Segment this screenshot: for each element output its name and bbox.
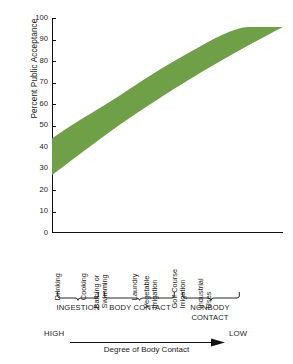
- acceptance-band: [52, 18, 283, 233]
- y-tick-label-90: 90: [26, 35, 48, 43]
- y-tick-label-10: 10: [26, 207, 48, 215]
- y-tick-label-50: 50: [26, 121, 48, 129]
- group-label-nonbody-contact: NONBODY CONTACT: [180, 303, 240, 322]
- brace-nonbody-contact: [182, 292, 240, 301]
- y-tick-label-40: 40: [26, 143, 48, 151]
- y-tick-label-60: 60: [26, 100, 48, 108]
- gradient-arrow-icon: [70, 333, 230, 342]
- group-label-nonbody-contact-line1: NONBODY: [180, 303, 240, 313]
- gradient-high-label: HIGH: [44, 329, 64, 339]
- y-tick-label-20: 20: [26, 186, 48, 194]
- contact-gradient-row: HIGH LOW: [0, 329, 293, 341]
- y-tick-label-70: 70: [26, 78, 48, 86]
- y-tick-label-30: 30: [26, 164, 48, 172]
- y-tick-label-0: 0: [26, 229, 48, 237]
- brace-body-contact: [104, 292, 175, 301]
- brace-ingestion: [57, 292, 99, 301]
- group-label-ingestion-line1: INGESTION: [45, 303, 111, 313]
- group-label-body-contact-line1: BODY CONTACT: [106, 303, 174, 313]
- x-axis-title: Degree of Body Contact: [0, 345, 293, 354]
- plot-area: [52, 18, 283, 233]
- y-tick-label-80: 80: [26, 57, 48, 65]
- group-label-nonbody-contact-line2: CONTACT: [180, 313, 240, 323]
- group-label-ingestion: INGESTION: [45, 303, 111, 313]
- group-label-body-contact: BODY CONTACT: [106, 303, 174, 313]
- gradient-low-label: LOW: [229, 329, 247, 339]
- chart-figure: Percent Public Acceptance 100 90 80 70 6…: [0, 0, 293, 364]
- y-tick-label-100: 100: [26, 14, 48, 22]
